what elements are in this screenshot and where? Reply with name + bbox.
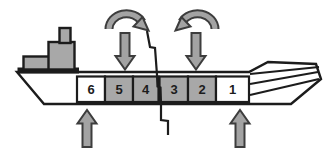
down-arrow-left-icon	[116, 33, 135, 70]
compartment-2-label: 2	[198, 82, 205, 97]
deckhouse	[24, 57, 50, 70]
ship-diagram-canvas: 6 5 4 3 2 1	[0, 0, 329, 155]
rotation-arrow-clockwise-icon	[109, 14, 149, 31]
bridge-block	[49, 42, 75, 70]
funnel	[60, 28, 71, 43]
up-arrow-right-icon	[231, 110, 250, 147]
ship-stress-diagram: 6 5 4 3 2 1	[0, 0, 329, 155]
down-arrow-right-icon	[187, 33, 206, 70]
rotation-arrow-counterclockwise-icon	[176, 14, 216, 31]
up-arrow-left-icon	[78, 110, 97, 147]
compartment-3-label: 3	[170, 82, 177, 97]
compartment-4-label: 4	[142, 82, 150, 97]
compartment-row: 6 5 4 3 2 1	[77, 77, 249, 103]
superstructure	[24, 28, 75, 70]
compartment-5-label: 5	[115, 82, 122, 97]
compartment-6-label: 6	[87, 82, 94, 97]
compartment-1-label: 1	[229, 82, 236, 97]
